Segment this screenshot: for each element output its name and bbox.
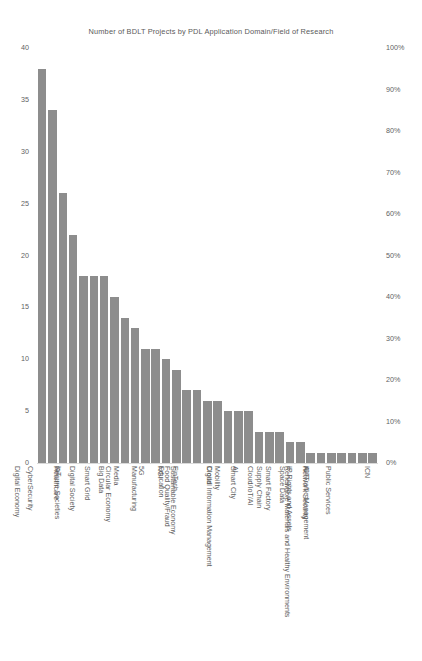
bar[interactable] [172,370,181,463]
bar-slot[interactable] [130,48,140,463]
bar-slot[interactable] [357,48,367,463]
bar[interactable] [131,328,140,463]
bar[interactable] [110,297,119,463]
y-tick-left: 30 [21,148,34,155]
bar-slot[interactable] [37,48,47,463]
y-tick-right: 50% [381,252,400,259]
bar-slot[interactable] [192,48,202,463]
y-tick-right: 0% [381,459,396,466]
bar[interactable] [151,349,160,463]
bar-slot[interactable] [264,48,274,463]
bar-slot[interactable] [285,48,295,463]
y-tick-right: 90% [381,86,400,93]
bar-slot[interactable] [368,48,378,463]
y-tick-left: 25 [21,200,34,207]
bar[interactable] [296,442,305,463]
bar-slot[interactable] [275,48,285,463]
bar-slot[interactable] [58,48,68,463]
bar-slot[interactable] [68,48,78,463]
category-label: Renewable Materials and Healthy Environm… [280,466,287,617]
category-label: Circular Economy [100,466,107,522]
bar-slot[interactable] [316,48,326,463]
y-tick-right: 40% [381,293,400,300]
y-tick-left: 20 [21,252,34,259]
bar[interactable] [224,411,233,463]
y-tick-left: 5 [25,408,34,415]
bar-slot[interactable] [171,48,181,463]
bar[interactable] [100,276,109,463]
y-tick-right: 80% [381,127,400,134]
bar-slot[interactable] [306,48,316,463]
bar[interactable] [182,390,191,463]
bar-slot[interactable] [254,48,264,463]
bar-slot[interactable] [202,48,212,463]
bar[interactable] [255,432,264,463]
bar-slot[interactable] [244,48,254,463]
y-tick-right: 60% [381,210,400,217]
bar-slot[interactable] [161,48,171,463]
bar-slot[interactable] [337,48,347,463]
y-tick-left: 40 [21,44,34,51]
bar[interactable] [38,69,47,463]
category-label-slot: Digital Economy [37,466,47,656]
bar[interactable] [306,453,315,463]
bar-slot[interactable] [347,48,357,463]
category-label-slot: Air Traffic Management [337,466,347,656]
bar-slot[interactable] [120,48,130,463]
y-axis-right-percent: 100%90%80%70%60%50%40%30%20%10%0% [381,48,421,463]
bar[interactable] [358,453,367,463]
chart-title: Number of BDLT Projects by PDL Applicati… [0,27,422,36]
category-label: Digital Economy [9,466,16,517]
bar-slot[interactable] [47,48,57,463]
bar[interactable] [348,453,357,463]
bar[interactable] [213,401,222,463]
x-axis-category-labels: Digital EconomyCyberSecurityIoTHealthcar… [37,466,378,656]
bar-slot[interactable] [182,48,192,463]
bar-slot[interactable] [78,48,88,463]
bar[interactable] [193,390,202,463]
y-tick-right: 20% [381,376,400,383]
bar[interactable] [275,432,284,463]
bar-slot[interactable] [140,48,150,463]
bar[interactable] [121,318,130,463]
category-label: Public Services [321,466,328,515]
bar[interactable] [59,193,68,463]
category-label-slot: Public Services [347,466,357,656]
bar-slot[interactable] [233,48,243,463]
bar-series [37,48,378,463]
bar-slot[interactable] [326,48,336,463]
bar[interactable] [337,453,346,463]
category-label: Air Traffic Management [298,466,305,539]
bar[interactable] [368,453,377,463]
bar[interactable] [317,453,326,463]
category-label-slot: 5G [140,466,150,656]
category-label-slot: Renewable Materials and Healthy Environm… [357,466,367,656]
bar-slot[interactable] [151,48,161,463]
bar-slot[interactable] [213,48,223,463]
bar-slot[interactable] [223,48,233,463]
bar[interactable] [234,411,243,463]
category-label: ICN [359,466,366,478]
y-tick-left: 10 [21,356,34,363]
bar-slot[interactable] [99,48,109,463]
bar[interactable] [265,432,274,463]
bar[interactable] [48,110,57,463]
bar[interactable] [203,401,212,463]
category-label: Manufacturing [126,466,133,511]
plot-area [37,48,378,463]
bar[interactable] [162,359,171,463]
y-tick-right: 10% [381,418,400,425]
bar-slot[interactable] [295,48,305,463]
bar[interactable] [244,411,253,463]
bar-slot[interactable] [89,48,99,463]
bar[interactable] [327,453,336,463]
bar[interactable] [69,235,78,463]
bar[interactable] [141,349,150,463]
bar[interactable] [90,276,99,463]
bar[interactable] [79,276,88,463]
y-tick-right: 70% [381,169,400,176]
category-label: Digital Information Management [202,466,209,567]
category-label: Cloud/IoT/AI [243,466,250,505]
bar-slot[interactable] [109,48,119,463]
bar[interactable] [286,442,295,463]
